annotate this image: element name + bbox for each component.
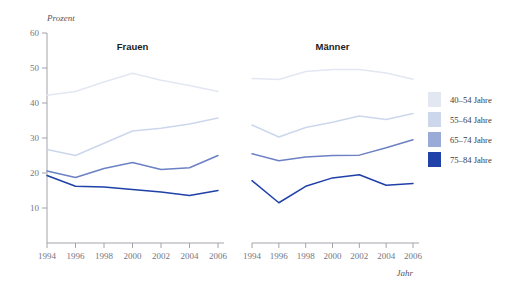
x-axis-tick-label: 2002	[152, 251, 170, 261]
x-axis-tick-label: 2006	[209, 251, 228, 261]
y-axis-tick-label: 60	[30, 28, 40, 38]
x-axis-tick-label: 2002	[350, 251, 368, 261]
x-axis-tick-label: 1998	[95, 251, 114, 261]
series-line	[47, 118, 218, 155]
panel-title-1: Frauen	[117, 41, 149, 52]
x-axis-tick-label: 2006	[404, 251, 423, 261]
x-axis-tick-label: 2000	[324, 251, 343, 261]
y-axis-title: Prozent	[46, 13, 75, 23]
series-line	[252, 69, 413, 79]
y-axis-tick-label: 30	[30, 133, 40, 143]
x-axis-tick-label: 2000	[124, 251, 143, 261]
series-line	[47, 175, 218, 195]
legend-label: 75–84 Jahre	[450, 155, 492, 165]
x-axis-tick-label: 2004	[181, 251, 200, 261]
x-axis-title: Jahr	[397, 268, 414, 278]
series-line	[47, 156, 218, 178]
legend-swatch	[428, 92, 441, 107]
legend-label: 65–74 Jahre	[450, 135, 492, 145]
chart-figure: Prozent102030405060199419961998200020022…	[0, 0, 518, 294]
legend-swatch	[428, 112, 441, 127]
x-axis-tick-label: 1996	[67, 251, 86, 261]
series-line	[252, 175, 413, 203]
x-axis-tick-label: 1994	[243, 251, 262, 261]
x-axis-tick-label: 1996	[270, 251, 289, 261]
series-line	[47, 73, 218, 95]
cropped-caption-artifact	[0, 0, 518, 6]
y-axis-tick-label: 10	[30, 203, 40, 213]
legend-label: 55–64 Jahre	[450, 115, 492, 125]
legend-swatch	[428, 132, 441, 147]
y-axis-tick-label: 50	[30, 63, 40, 73]
line-chart-svg: Prozent102030405060199419961998200020022…	[0, 0, 518, 294]
x-axis-tick-label: 1994	[38, 251, 57, 261]
series-line	[252, 114, 413, 137]
series-line	[252, 140, 413, 161]
legend-label: 40–54 Jahre	[450, 95, 492, 105]
x-axis-tick-label: 2004	[377, 251, 396, 261]
y-axis-tick-label: 20	[30, 168, 40, 178]
x-axis-tick-label: 1998	[297, 251, 316, 261]
y-axis-tick-label: 40	[30, 98, 40, 108]
legend-swatch	[428, 152, 441, 167]
panel-title-2: Männer	[316, 41, 350, 52]
